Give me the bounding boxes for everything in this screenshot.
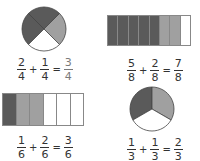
equals-sign: =	[162, 65, 170, 76]
fraction-addend-1: 1 6	[17, 135, 26, 160]
fraction-result: 2 3	[174, 137, 183, 161]
bar-cell	[71, 94, 84, 125]
plus-sign: +	[29, 142, 37, 153]
bar-cell	[118, 16, 128, 45]
fraction-result: 3 4	[64, 57, 73, 82]
equals-sign: =	[162, 144, 170, 155]
bar-cell	[129, 16, 139, 45]
equals-sign: =	[52, 64, 60, 75]
bar-cell	[3, 94, 17, 125]
plus-sign: +	[139, 65, 147, 76]
plus-sign: +	[139, 144, 147, 155]
bar-cell	[139, 16, 149, 45]
fraction-result: 3 6	[64, 135, 73, 160]
equation-eighths: 5 8 + 2 8 = 7 8	[127, 58, 183, 83]
bar-cell	[170, 16, 180, 45]
bar-cell	[30, 94, 44, 125]
bar-cell	[108, 16, 118, 45]
equation-thirds: 1 3 + 1 3 = 2 3	[127, 137, 183, 161]
equals-sign: =	[52, 142, 60, 153]
fraction-addend-1: 2 4	[17, 57, 26, 82]
bar-sixths-diagram	[2, 93, 84, 126]
bar-cell	[160, 16, 170, 45]
bar-cell	[150, 16, 160, 45]
circle-thirds-diagram	[129, 86, 175, 132]
circle-fourths-diagram	[21, 6, 67, 52]
bar-cell	[44, 94, 58, 125]
fraction-addend-1: 1 3	[127, 137, 136, 161]
fraction-addend-2: 2 8	[150, 58, 159, 83]
fraction-addend-2: 1 3	[150, 137, 159, 161]
equation-sixths: 1 6 + 2 6 = 3 6	[17, 135, 73, 160]
plus-sign: +	[29, 64, 37, 75]
fraction-addend-2: 1 4	[40, 57, 49, 82]
fraction-result: 7 8	[174, 58, 183, 83]
bar-cell	[57, 94, 71, 125]
fraction-addend-2: 2 6	[40, 135, 49, 160]
bar-cell	[17, 94, 31, 125]
equation-fourths: 2 4 + 1 4 = 3 4	[17, 57, 73, 82]
bar-eighths-diagram	[107, 15, 191, 46]
bar-cell	[181, 16, 190, 45]
fraction-addend-1: 5 8	[127, 58, 136, 83]
